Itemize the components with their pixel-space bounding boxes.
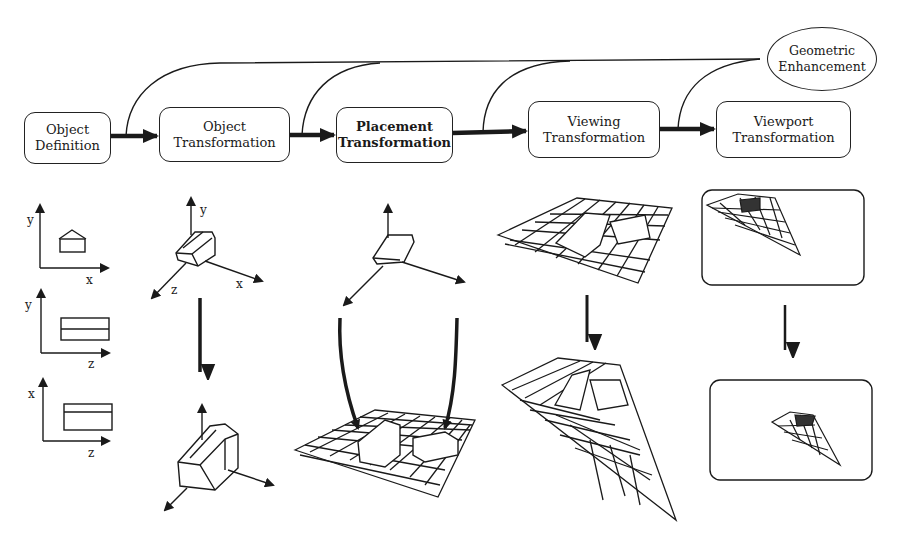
stage-label-line2: Definition [35,138,100,154]
stage-label-line2: Transformation [338,135,451,151]
stage-label-line2: Transformation [732,130,834,146]
object-transform-illustration [152,198,273,510]
stage-label-line1: Object [35,122,100,138]
stage-viewport-transformation: ViewportTransformation [716,101,851,158]
stage-placement-transformation: PlacementTransformation [336,107,453,163]
axis-label-z-side: z [88,357,94,371]
diagram-canvas [0,0,897,536]
viewport-illustration [702,190,872,480]
stage-object-definition: ObjectDefinition [24,112,111,164]
stage-label-line2: Transformation [543,130,645,146]
enhancement-label-line1: Geometric [789,43,855,59]
enhancement-label-line2: Enhancement [778,59,865,75]
placement-illustration [295,205,475,497]
axis-label-z-top: z [88,446,94,460]
stage-label-line2: Transformation [173,135,275,151]
stage-label-line1: Viewport [732,114,834,130]
axis-label-y-object: y [200,203,207,217]
definition-views [40,205,112,441]
axis-label-y-front: y [27,213,34,227]
axis-label-x-top: x [28,387,35,401]
axis-label-x-front: x [86,273,93,287]
stage-label-line1: Object [173,119,275,135]
viewing-illustration [498,198,676,520]
axis-label-y-side: y [25,298,32,312]
stage-object-transformation: ObjectTransformation [159,107,290,162]
stage-label-line1: Placement [338,119,451,135]
axis-label-x-object: x [236,277,243,291]
axis-label-z-object: z [171,283,177,297]
stage-label-line1: Viewing [543,114,645,130]
stage-viewing-transformation: ViewingTransformation [528,101,660,158]
geometric-enhancement-node: Geometric Enhancement [767,27,877,91]
